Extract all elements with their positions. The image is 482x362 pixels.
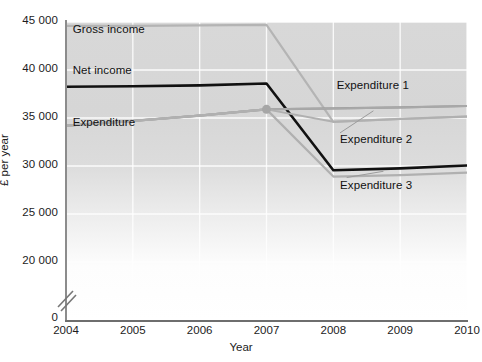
- x-tick-label: 2004: [36, 324, 96, 336]
- y-tick-label: 40 000: [0, 62, 58, 74]
- y-axis-title: £ per year: [0, 134, 10, 186]
- y-tick-label: 35 000: [0, 110, 58, 122]
- y-tick-label-zero: 0: [0, 311, 58, 323]
- series-label-expenditure-1: Expenditure 1: [337, 79, 409, 91]
- series-label-gross-income: Gross income: [73, 23, 145, 35]
- x-axis-title: Year: [0, 341, 482, 353]
- series-label-expenditure-2: Expenditure 2: [340, 133, 412, 145]
- x-tick-label: 2005: [103, 324, 163, 336]
- x-tick-label: 2010: [437, 324, 482, 336]
- x-axis-line: [65, 320, 468, 322]
- x-tick-label: 2006: [170, 324, 230, 336]
- x-tick-label: 2008: [303, 324, 363, 336]
- series-label-expenditure-3: Expenditure 3: [340, 179, 412, 191]
- x-tick-label: 2009: [370, 324, 430, 336]
- y-tick-label: 25 000: [0, 206, 58, 218]
- line-chart: 20 00025 00030 00035 00040 00045 0000 20…: [0, 0, 482, 362]
- y-axis-line: [65, 20, 67, 321]
- axis-break-icon: [56, 288, 78, 314]
- x-tick-label: 2007: [237, 324, 297, 336]
- y-tick-label: 45 000: [0, 14, 58, 26]
- y-tick-label: 20 000: [0, 254, 58, 266]
- series-label-expenditure: Expenditure: [73, 116, 135, 128]
- series-label-net-income: Net income: [73, 64, 132, 76]
